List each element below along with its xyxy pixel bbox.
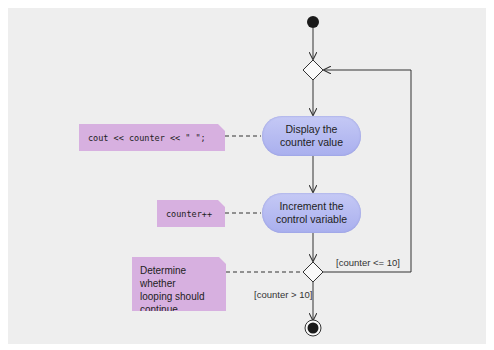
initial-node-icon [307, 16, 319, 28]
note-increment-code: counter++ [157, 200, 225, 227]
note-decision: Determine whether looping should continu… [132, 257, 226, 311]
note-code-text: cout << counter << " "; [88, 133, 206, 143]
note-line: looping should [140, 290, 218, 303]
merge-node-icon [303, 60, 323, 80]
action-label-line1: Increment the [276, 200, 347, 213]
action-label-line2: control variable [276, 213, 347, 226]
action-display-counter: Display the counter value [262, 116, 361, 156]
guard-exit-condition: [counter > 10] [254, 289, 312, 300]
guard-loop-condition: [counter <= 10] [336, 257, 400, 268]
action-increment-variable: Increment the control variable [262, 193, 361, 233]
note-line: Determine whether [140, 264, 218, 290]
note-display-code: cout << counter << " "; [79, 124, 225, 151]
note-code-text: counter++ [166, 209, 212, 219]
action-label-line2: counter value [280, 136, 343, 149]
decision-node-icon [303, 262, 323, 282]
diagram-edges [0, 0, 494, 350]
action-label-line1: Display the [280, 123, 343, 136]
